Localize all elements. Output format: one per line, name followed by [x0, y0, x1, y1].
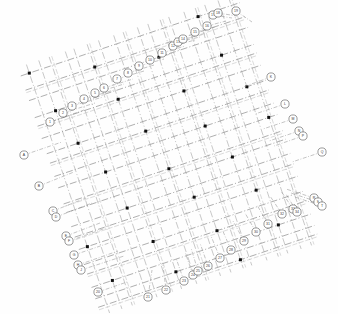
column-marker — [204, 125, 207, 128]
bubble-label: G — [73, 253, 76, 257]
grid-bubble[interactable]: 4 — [80, 95, 88, 103]
column-marker — [239, 258, 242, 261]
grid-bubble[interactable]: 16 — [203, 22, 211, 30]
column-marker — [86, 245, 89, 248]
grid-bubble[interactable]: B — [35, 182, 43, 190]
grid-bubble[interactable]: 10 — [146, 56, 154, 64]
bubble-label: 7 — [116, 77, 118, 81]
bubble-leader-line — [81, 256, 124, 270]
column-marker — [174, 270, 177, 273]
bubble-leader-line — [286, 189, 314, 198]
grid-bubble[interactable]: D — [52, 213, 60, 221]
grid-bubble[interactable]: 18 — [214, 9, 222, 17]
gridline-axis-b — [74, 49, 157, 297]
grid-bubble[interactable]: 30 — [252, 228, 260, 236]
gridline-axis-a — [42, 65, 261, 138]
bubble-leader-line — [274, 136, 303, 146]
beam-line — [90, 43, 173, 291]
gridline-axis-b — [218, 0, 301, 248]
grid-bubble[interactable]: 20 — [94, 288, 102, 296]
grid-bubble[interactable]: 25 — [194, 267, 202, 275]
grid-bubble[interactable]: 31 — [264, 220, 272, 228]
bubble-label: 2 — [62, 111, 64, 115]
bubble-label: 19 — [234, 9, 238, 13]
gridline-axis-a — [64, 131, 283, 204]
column-marker — [197, 15, 200, 18]
grid-bubble[interactable]: 6 — [100, 84, 108, 92]
bubble-leader-line — [98, 282, 127, 292]
grid-bubble[interactable]: 9 — [135, 62, 143, 70]
grid-bubble[interactable]: 11 — [158, 49, 166, 57]
column-marker — [277, 223, 280, 226]
gridline-axis-a — [84, 191, 303, 264]
beam-line — [163, 19, 246, 267]
grid-bubble[interactable]: M — [289, 115, 297, 123]
grid-bubble[interactable]: 3 — [68, 102, 76, 110]
grid-bubble[interactable]: 21 — [144, 293, 152, 301]
grid-bubble[interactable]: 26 — [204, 262, 212, 270]
structural-plan-svg: ABCDEFGHJ12345678910111213141516171819KL… — [0, 0, 338, 314]
bubble-label: 30 — [254, 230, 258, 234]
grid-bubble[interactable]: 7 — [113, 75, 121, 83]
grid-bubble[interactable]: 19 — [232, 7, 240, 15]
bubble-label: 22 — [164, 288, 168, 292]
gridline-axis-a — [54, 103, 273, 176]
column-marker — [231, 155, 234, 158]
grid-bubble[interactable]: 5 — [91, 89, 99, 97]
bubble-leader-line — [95, 84, 124, 93]
grid-bubble[interactable]: 29 — [240, 237, 248, 245]
bubble-label: 18 — [216, 11, 220, 15]
beam-line — [99, 237, 318, 310]
bubble-label: 10 — [148, 58, 152, 62]
grid-bubble[interactable]: 27 — [216, 254, 224, 262]
grid-bubble[interactable]: 14 — [179, 35, 187, 43]
grid-bubble[interactable]: 15 — [191, 28, 199, 36]
gridline-axis-b — [137, 27, 220, 275]
grid-bubble[interactable]: 23 — [180, 277, 188, 285]
beam-line — [88, 203, 307, 276]
grid-bubble[interactable]: 22 — [162, 286, 170, 294]
bubble-leader-line — [56, 203, 92, 217]
bubble-leader-line — [78, 251, 118, 265]
bubble-label: 15 — [193, 30, 197, 34]
gridline-axis-b — [169, 17, 252, 265]
grid-bubble[interactable]: P — [299, 132, 307, 140]
bubble-label: 8 — [127, 71, 129, 75]
grid-bubble[interactable]: Q — [318, 148, 326, 156]
gridline-axis-b — [160, 20, 243, 268]
grid-bubble[interactable]: F — [65, 237, 73, 245]
column-marker — [182, 89, 185, 92]
grid-bubble[interactable]: A — [20, 151, 28, 159]
gridline-axis-a — [75, 164, 294, 237]
grid-bubble[interactable]: 34 — [293, 208, 301, 216]
gridline-axis-b — [123, 32, 206, 280]
grid-bubble[interactable]: L — [281, 100, 289, 108]
bubble-label: 16 — [205, 24, 209, 28]
bubble-label: 27 — [218, 256, 222, 260]
column-marker — [54, 109, 57, 112]
grid-bubble[interactable]: 1 — [46, 118, 54, 126]
gridline-axis-b — [99, 40, 182, 288]
grid-bubble[interactable]: K — [267, 73, 275, 81]
column-marker — [77, 142, 80, 145]
column-marker — [144, 130, 147, 133]
bubble-label: F — [68, 239, 70, 243]
gridline-axis-a — [21, 3, 240, 76]
bubble-label: 28 — [229, 248, 233, 252]
column-marker — [267, 116, 270, 119]
bubble-label: 20 — [96, 290, 100, 294]
grid-bubble[interactable]: 28 — [227, 246, 235, 254]
grid-bubble[interactable]: T — [318, 202, 326, 210]
grid-bubble-layer: ABCDEFGHJ12345678910111213141516171819KL… — [20, 7, 326, 301]
grid-bubble[interactable]: J — [77, 266, 85, 274]
column-marker — [126, 207, 129, 210]
bubble-label: 21 — [146, 295, 150, 299]
beam-line — [64, 133, 283, 206]
bubble-label: Q — [321, 150, 324, 154]
bubble-label: 23 — [182, 279, 186, 283]
grid-bubble[interactable]: G — [70, 251, 78, 259]
gridline-axis-a — [95, 226, 314, 299]
grid-bubble[interactable]: 32 — [278, 210, 286, 218]
grid-bubble[interactable]: 8 — [124, 69, 132, 77]
grid-bubble[interactable]: 2 — [59, 109, 67, 117]
